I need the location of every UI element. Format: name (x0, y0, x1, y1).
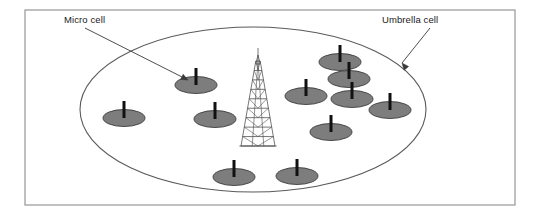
diagram-canvas: Micro cell Umbrella cell (0, 0, 539, 212)
topology-svg (0, 0, 539, 212)
umbrella-cell-label: Umbrella cell (382, 14, 438, 25)
micro-cell-label: Micro cell (64, 14, 105, 25)
figure-frame (25, 10, 515, 205)
